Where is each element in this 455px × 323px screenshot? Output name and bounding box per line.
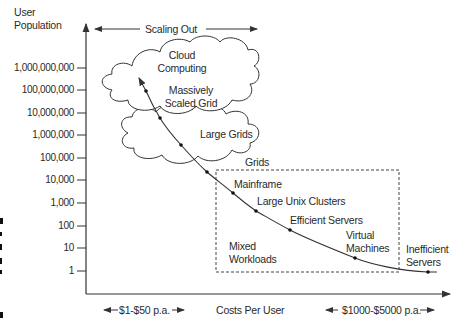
virtual-machines-line2: Machines [346,242,389,255]
mixed-workloads-label: Mixed Workloads [229,240,277,266]
y-axis-label-line1: User [14,6,62,19]
cloud-computing-label: Cloud Computing [152,49,212,75]
inefficient-servers-line2: Servers [406,256,455,269]
massively-scaled-grid-label: Massively Scaled Grid [158,84,224,110]
y-tick-1e2: 100 [0,220,74,232]
y-axis-label: User Population [14,6,62,32]
inefficient-servers-line1: Inefficient [406,243,455,256]
scaling-out-label: Scaling Out [145,23,197,35]
y-tick-1e0: 1 [0,265,74,277]
y-tick-1e9: 1,000,000,000 [0,62,74,74]
mixed-workloads-line2: Workloads [229,253,277,266]
y-tick-1e5: 100,000 [0,152,74,164]
large-grids-label: Large Grids [200,128,253,140]
grids-label: Grids [245,156,269,168]
y-tick-1e3: 1,000 [0,197,74,209]
inefficient-servers-label: Inefficient Servers [406,243,455,269]
x-right-range-label: $1000-$5000 p.a. [342,304,421,316]
x-axis-label: Costs Per User [216,304,284,316]
cloud-computing-line1: Cloud [152,49,212,62]
y-tick-1e7: 10,000,000 [0,107,74,119]
virtual-machines-line1: Virtual [346,229,389,242]
y-axis-label-line2: Population [14,19,62,32]
x-left-range-label: $1-$50 p.a. [119,304,170,316]
cloud-computing-line2: Computing [152,62,212,75]
y-tick-1e4: 10,000 [0,174,74,186]
large-unix-clusters-label: Large Unix Clusters [257,195,345,207]
massively-line1: Massively [158,84,224,97]
y-tick-1e8: 100,000,000 [0,84,74,96]
y-axis [77,24,86,294]
virtual-machines-label: Virtual Machines [346,229,389,255]
mainframe-label: Mainframe [234,178,282,190]
efficient-servers-label: Efficient Servers [290,214,363,226]
y-tick-1e1: 10 [0,242,74,254]
y-tick-1e6: 1,000,000 [0,129,74,141]
mixed-workloads-line1: Mixed [229,240,277,253]
massively-line2: Scaled Grid [158,97,224,110]
